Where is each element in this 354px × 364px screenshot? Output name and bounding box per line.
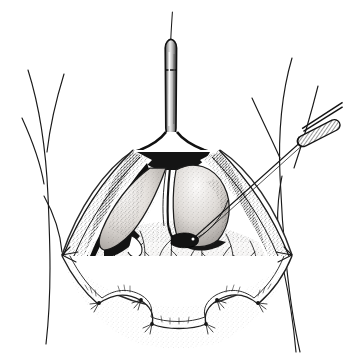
needle-tip-target-structure xyxy=(171,233,198,248)
vertical-cannula-instrument xyxy=(165,39,176,140)
illustration-canvas: Open surgical exposure with retracted wo… xyxy=(0,0,354,364)
surgical-illustration-figure: Open surgical exposure with retracted wo… xyxy=(0,0,354,364)
cannula-barrel xyxy=(165,39,176,140)
